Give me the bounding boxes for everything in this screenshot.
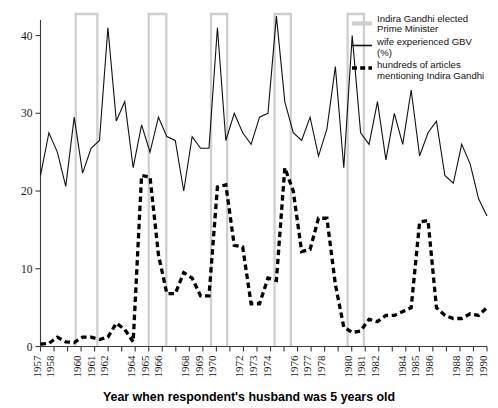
x-tick-label-1974: 1974 — [261, 355, 273, 378]
x-tick-label-1970: 1970 — [206, 355, 218, 378]
legend-label-1-line1: wife experienced GBV — [376, 36, 473, 47]
x-tick-label-1965: 1965 — [139, 355, 151, 378]
line-chart: 010203040 195719581960196119621964196519… — [0, 0, 498, 408]
x-tick-label-1978: 1978 — [315, 355, 327, 378]
election-band-2 — [211, 14, 227, 347]
x-tick-label-1982: 1982 — [369, 356, 381, 378]
legend-label-2-line1: hundreds of articles — [377, 59, 461, 70]
y-tick-label-40: 40 — [21, 30, 33, 42]
y-tick-label-30: 30 — [21, 107, 33, 119]
x-tick-label-1976: 1976 — [288, 355, 300, 378]
x-tick-label-1985: 1985 — [409, 355, 421, 378]
x-tick-label-1957: 1957 — [31, 355, 43, 378]
x-tick-label-1958: 1958 — [44, 355, 56, 378]
y-tick-label-10: 10 — [21, 263, 33, 275]
x-tick-label-1969: 1969 — [193, 355, 205, 378]
legend: Indira Gandhi elected Prime Minister wif… — [352, 13, 484, 81]
x-tick-label-1960: 1960 — [71, 355, 83, 378]
x-tick-label-1972: 1972 — [233, 356, 245, 378]
x-tick-label-1988: 1988 — [450, 355, 462, 378]
y-tick-label-0: 0 — [27, 341, 33, 353]
legend-label-2-line2: mentioning Indira Gandhi — [377, 70, 484, 81]
x-tick-label-1966: 1966 — [152, 355, 164, 378]
x-tick-label-1990: 1990 — [477, 355, 489, 378]
x-tick-label-1977: 1977 — [301, 355, 313, 378]
x-tick-label-1973: 1973 — [247, 355, 259, 378]
legend-label-0-line2: Prime Minister — [377, 23, 439, 34]
x-tick-label-1968: 1968 — [179, 355, 191, 378]
legend-label-1-line2: (%) — [377, 47, 392, 58]
election-band-0 — [76, 14, 98, 347]
x-tick-label-1961: 1961 — [85, 356, 97, 378]
x-tick-label-1962: 1962 — [98, 356, 110, 378]
y-tick-label-20: 20 — [21, 185, 33, 197]
legend-label-0-line1: Indira Gandhi elected — [377, 13, 468, 24]
x-tick-label-1980: 1980 — [342, 355, 354, 378]
x-tick-label-1989: 1989 — [463, 355, 475, 378]
x-tick-label-1986: 1986 — [423, 355, 435, 378]
y-axis: 010203040 — [21, 20, 41, 353]
x-tick-label-1981: 1981 — [355, 356, 367, 378]
chart-container: 010203040 195719581960196119621964196519… — [0, 0, 498, 408]
x-tick-label-1984: 1984 — [396, 355, 408, 378]
series-articles-line — [41, 168, 488, 344]
x-axis-title: Year when respondent's husband was 5 yea… — [103, 390, 395, 404]
x-axis: 1957195819601961196219641965196619681969… — [31, 347, 490, 378]
x-tick-label-1964: 1964 — [125, 355, 137, 378]
